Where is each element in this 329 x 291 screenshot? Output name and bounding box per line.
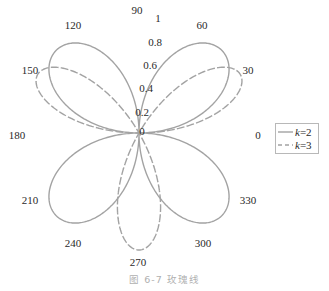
theta-label-330: 330 xyxy=(240,194,257,206)
legend-label-k2: k=2 xyxy=(295,126,312,138)
theta-label-150: 150 xyxy=(22,64,39,76)
legend-label-k3: k=3 xyxy=(295,139,312,151)
legend: k=2 k=3 xyxy=(276,124,319,154)
polar-rose-chart: 9060300330300270240210180150120 10.80.60… xyxy=(0,0,329,291)
figure-caption: 图 6-7 玫瑰线 xyxy=(0,272,329,286)
plot-area xyxy=(36,43,242,250)
r-label-0.2: 0.2 xyxy=(135,106,149,118)
r-label-0: 0 xyxy=(139,125,145,137)
theta-tick-labels: 9060300330300270240210180150120 xyxy=(9,4,262,268)
theta-label-180: 180 xyxy=(9,129,26,141)
theta-label-210: 210 xyxy=(22,194,39,206)
theta-label-240: 240 xyxy=(65,237,82,249)
theta-label-120: 120 xyxy=(65,19,82,31)
r-label-0.6: 0.6 xyxy=(143,59,157,71)
theta-label-270: 270 xyxy=(130,256,147,268)
theta-label-60: 60 xyxy=(197,19,209,31)
r-label-0.8: 0.8 xyxy=(148,36,162,48)
theta-label-30: 30 xyxy=(243,64,255,76)
theta-label-300: 300 xyxy=(195,237,212,249)
theta-label-0: 0 xyxy=(255,129,261,141)
r-label-0.4: 0.4 xyxy=(139,82,153,94)
theta-label-90: 90 xyxy=(132,4,144,16)
r-label-1: 1 xyxy=(155,12,161,24)
